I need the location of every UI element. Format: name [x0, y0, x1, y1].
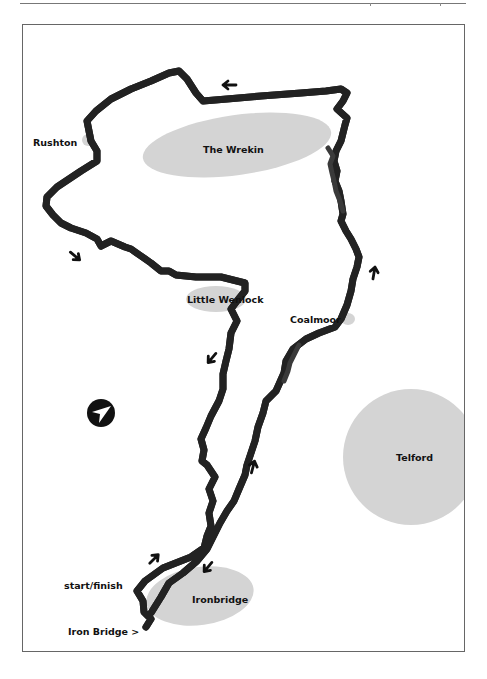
- arrow-south-east-icon: [68, 249, 82, 263]
- header-tick: [370, 3, 371, 6]
- place-labels: The Wrekin Rushton Little Wenlock Coalmo…: [33, 137, 433, 637]
- place-areas: [82, 102, 465, 632]
- arrow-north-icon: [369, 266, 379, 279]
- arrow-west-icon: [223, 81, 236, 89]
- arrow-north-east-icon: [147, 552, 161, 566]
- little-wenlock-label: Little Wenlock: [187, 294, 264, 305]
- route-map: The Wrekin Rushton Little Wenlock Coalmo…: [22, 24, 465, 652]
- compass-north-arrow-icon: [87, 399, 115, 427]
- start-finish-label: start/finish: [64, 580, 123, 591]
- header-tick: [440, 3, 441, 6]
- page-header-rule: [20, 3, 466, 4]
- the-wrekin-label: The Wrekin: [203, 144, 264, 155]
- coalmoor-label: Coalmoor: [290, 314, 341, 325]
- rushton-label: Rushton: [33, 137, 78, 148]
- arrow-south-west-icon: [205, 351, 219, 365]
- route-map-canvas: The Wrekin Rushton Little Wenlock Coalmo…: [23, 25, 465, 652]
- telford-label: Telford: [396, 452, 433, 463]
- iron-bridge-label: Iron Bridge >: [68, 626, 139, 637]
- ironbridge-label: Ironbridge: [192, 594, 248, 605]
